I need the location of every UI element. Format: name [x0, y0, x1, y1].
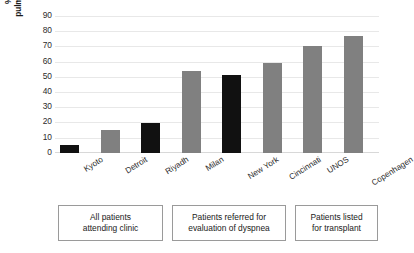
x-label-kyoto: Kyoto: [82, 155, 105, 174]
x-label-cincinnati: Cincinnati: [287, 155, 322, 182]
x-label-new-york: New York: [246, 155, 280, 181]
group-box-all-patients-line-1: All patients: [90, 212, 131, 223]
x-label-detroit: Detroit: [123, 155, 148, 175]
y-tick-50: 50: [26, 72, 52, 81]
y-axis-tick-labels: 90 80 70 60 50 40 30 20 10 0: [22, 16, 52, 153]
y-axis-title-line-1: % of patients with: [4, 0, 14, 40]
bar-kyoto: [60, 145, 79, 153]
group-box-listed-transplant-line-1: Patients listed: [310, 212, 362, 223]
x-axis-category-labels: Kyoto Detroit Riyadh Milan New York Cinc…: [55, 155, 379, 200]
bar-cincinnati: [263, 63, 282, 153]
y-tick-80: 80: [26, 26, 52, 35]
bar-riyadh: [141, 123, 160, 153]
group-box-all-patients-line-2: attending clinic: [83, 223, 138, 234]
group-box-referred-dyspnea-line-1: Patients referred for: [192, 212, 266, 223]
y-tick-60: 60: [26, 57, 52, 66]
group-box-listed-transplant: Patients listed for transplant: [295, 205, 378, 241]
y-tick-40: 40: [26, 87, 52, 96]
group-box-listed-transplant-line-2: for transplant: [312, 223, 361, 234]
bar-milan: [182, 71, 201, 153]
bar-new-york: [222, 75, 241, 153]
group-box-referred-dyspnea-line-2: evaluation of dyspnea: [188, 223, 270, 234]
bars-layer: [55, 16, 379, 153]
y-tick-90: 90: [26, 11, 52, 20]
x-label-milan: Milan: [203, 155, 224, 173]
y-tick-10: 10: [26, 133, 52, 142]
x-label-unos: UNOS: [326, 155, 351, 175]
x-label-riyadh: Riyadh: [164, 155, 190, 176]
bar-unos: [303, 46, 322, 153]
y-tick-70: 70: [26, 41, 52, 50]
y-tick-20: 20: [26, 117, 52, 126]
group-box-all-patients: All patients attending clinic: [58, 205, 163, 241]
bar-detroit: [101, 130, 120, 153]
bar-copenhagen: [344, 36, 363, 153]
group-box-referred-dyspnea: Patients referred for evaluation of dysp…: [172, 205, 286, 241]
y-tick-30: 30: [26, 102, 52, 111]
y-tick-0: 0: [26, 148, 52, 157]
x-label-copenhagen: Copenhagen: [370, 155, 414, 187]
